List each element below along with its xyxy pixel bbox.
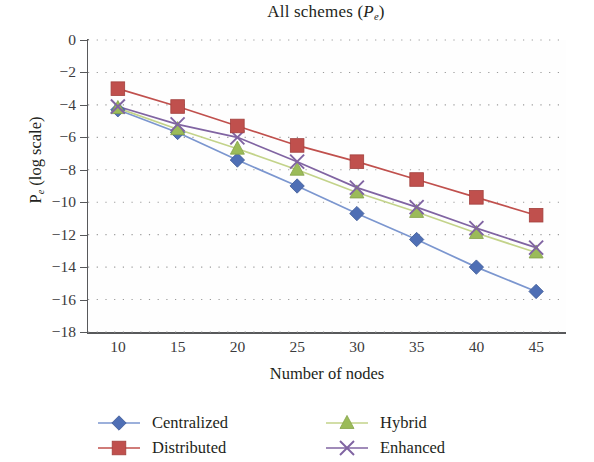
x-tick-label: 25 [277, 338, 317, 358]
x-tick-value: 10 [110, 338, 126, 355]
y-tick-mark [80, 202, 88, 203]
chart-title-symbol: P [363, 2, 374, 21]
chart-legend: CentralizedDistributedHybridEnhanced [96, 412, 536, 460]
diamond-marker [409, 232, 423, 246]
legend-item-enhanced[interactable]: Enhanced [324, 437, 445, 459]
y-tick-value: −16 [0, 291, 76, 309]
x-tick-value: 25 [289, 338, 305, 355]
x-tick-value: 40 [469, 338, 485, 355]
y-tick-value: −8 [0, 161, 76, 179]
markers-enhanced [111, 100, 543, 255]
square-marker [529, 208, 543, 222]
diamond-marker [350, 206, 364, 220]
y-tick-mark [80, 170, 88, 171]
x-tick-value: 45 [528, 338, 544, 355]
markers-distributed [111, 82, 543, 222]
x-tick-label: 35 [397, 338, 437, 358]
data-point-marker [112, 441, 126, 455]
diamond-marker [230, 153, 244, 167]
chart-title-text: All schemes ( [267, 2, 363, 21]
diamond-marker [112, 416, 126, 430]
legend-icon [324, 439, 370, 457]
y-tick-mark [80, 300, 88, 301]
square-marker [470, 191, 484, 205]
x-axis-line [87, 332, 566, 334]
data-point-marker [230, 153, 244, 167]
data-point-marker [350, 155, 364, 169]
legend-icon [96, 439, 142, 457]
x-tick-value: 20 [230, 338, 246, 355]
data-point-marker [410, 173, 424, 187]
legend-icon [324, 414, 370, 432]
x-tick-label: 40 [456, 338, 496, 358]
triangle-marker [340, 415, 354, 428]
data-point-marker [290, 179, 304, 193]
data-point-marker [470, 191, 484, 205]
y-tick-label: −18 [0, 323, 76, 339]
chart-title: All schemes (Pe) [88, 2, 564, 22]
data-point-marker [350, 206, 364, 220]
diamond-marker [529, 284, 543, 298]
legend-icon [96, 414, 142, 432]
y-tick-label: −4 [0, 96, 76, 112]
data-point-marker [112, 416, 126, 430]
data-point-marker [529, 284, 543, 298]
y-tick-label: −10 [0, 193, 76, 209]
plot-area [88, 40, 566, 332]
square-marker [111, 82, 125, 96]
square-marker [112, 441, 126, 455]
square-marker [350, 155, 364, 169]
x-tick-value: 30 [349, 338, 365, 355]
y-tick-label: −16 [0, 291, 76, 307]
legend-swatch-diamond-icon [96, 414, 142, 432]
data-point-marker [529, 208, 543, 222]
chart-title-close: ) [379, 2, 385, 21]
y-tick-value: −14 [0, 258, 76, 276]
y-tick-value: −2 [0, 63, 76, 81]
x-tick-label: 30 [337, 338, 377, 358]
plot-canvas [88, 40, 566, 332]
data-point-marker [409, 232, 423, 246]
legend-item-distributed[interactable]: Distributed [96, 437, 226, 459]
y-tick-value: −10 [0, 193, 76, 211]
x-tick-label: 20 [217, 338, 257, 358]
data-point-marker [171, 100, 185, 114]
legend-label: Enhanced [380, 438, 445, 458]
square-marker [171, 100, 185, 114]
data-point-marker [111, 82, 125, 96]
legend-swatch-square-icon [96, 439, 142, 457]
y-tick-label: 0 [0, 31, 76, 47]
legend-swatch-x-cross-icon [324, 439, 370, 457]
data-point-marker [290, 139, 304, 153]
diamond-marker [290, 179, 304, 193]
y-tick-value: −6 [0, 128, 76, 146]
y-tick-label: −6 [0, 128, 76, 144]
x-tick-label: 45 [516, 338, 556, 358]
y-tick-mark [80, 72, 88, 73]
legend-label: Distributed [152, 438, 226, 458]
legend-label: Hybrid [380, 413, 427, 433]
y-tick-label: −8 [0, 161, 76, 177]
y-tick-label: −2 [0, 63, 76, 79]
square-marker [231, 119, 245, 133]
legend-item-hybrid[interactable]: Hybrid [324, 412, 427, 434]
y-tick-value: −12 [0, 226, 76, 244]
x-tick-label: 15 [158, 338, 198, 358]
square-marker [410, 173, 424, 187]
data-point-marker [340, 415, 354, 428]
legend-swatch-triangle-icon [324, 414, 370, 432]
x-tick-value: 35 [409, 338, 425, 355]
gridlines [88, 40, 566, 332]
x-axis-title: Number of nodes [88, 364, 566, 384]
y-tick-mark [80, 267, 88, 268]
data-point-marker [231, 119, 245, 133]
data-point-marker [469, 260, 483, 274]
square-marker [290, 139, 304, 153]
x-tick-value: 15 [170, 338, 186, 355]
diamond-marker [469, 260, 483, 274]
chart-figure: All schemes (Pe) Pe (log scale) 0−2−4−6−… [0, 0, 594, 462]
y-tick-value: −4 [0, 96, 76, 114]
legend-item-centralized[interactable]: Centralized [96, 412, 228, 434]
y-tick-mark [80, 137, 88, 138]
y-tick-mark [80, 40, 88, 41]
